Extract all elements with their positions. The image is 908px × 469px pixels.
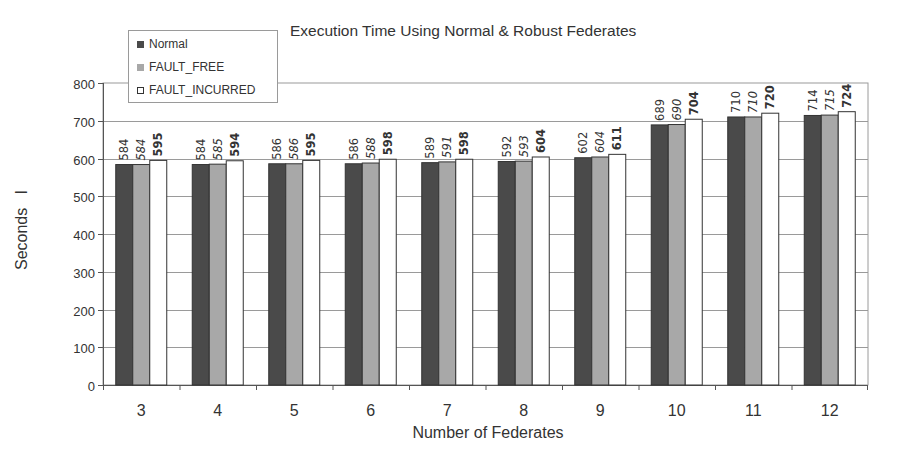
data-label: 604 [593,131,607,153]
y-tick-label: 600 [73,153,95,168]
y-axis-label: Seconds I [13,190,31,270]
bar-fault-free [439,162,456,385]
data-label: 584 [194,139,208,161]
data-label: 584 [134,139,148,161]
data-label: 595 [304,132,318,156]
y-tick-label: 0 [88,379,95,394]
data-label: 604 [534,129,548,153]
data-label: 724 [840,84,854,108]
x-tick-label: 6 [366,402,375,419]
bar-fault-incurred [838,112,855,385]
bar-normal [345,164,362,385]
bar-normal [728,117,745,385]
bar-fault-incurred [226,161,243,385]
x-tick-label: 12 [821,402,839,419]
legend-item-fault-incurred: FAULT_INCURRED [137,83,255,97]
bar-fault-free [286,164,303,385]
data-label: 602 [576,132,590,154]
data-label: 611 [610,126,624,150]
bar-fault-free [821,115,838,385]
y-tick-label: 800 [73,77,95,92]
legend: Normal FAULT_FREE FAULT_INCURRED [128,30,278,103]
legend-item-normal: Normal [137,37,188,51]
bar-fault-free [209,164,226,385]
data-label: 598 [381,131,395,155]
data-label: 689 [653,99,667,121]
y-tick-label: 100 [73,341,95,356]
data-label: 586 [347,138,361,160]
legend-label: Normal [149,37,188,51]
x-tick-label: 11 [745,402,762,419]
bar-fault-incurred [456,159,473,385]
y-tick-label: 300 [73,266,95,281]
legend-swatch-fault-incurred-icon [137,87,144,94]
bar-fault-free [668,125,685,385]
bar-normal [192,165,209,385]
bar-normal [498,162,515,385]
x-tick-label: 10 [668,402,686,419]
x-tick-label: 3 [137,402,146,419]
legend-swatch-normal-icon [137,41,144,48]
bar-fault-free [745,117,762,385]
data-label: 704 [687,91,701,115]
bar-normal [422,163,439,385]
bar-normal [269,164,286,385]
data-label: 589 [423,137,437,159]
data-label: 588 [364,137,378,159]
y-tick-label: 700 [73,115,95,130]
legend-item-fault-free: FAULT_FREE [137,60,224,74]
data-label: 710 [729,91,743,113]
data-label: 710 [746,91,760,113]
bar-fault-free [592,157,609,385]
x-axis-label: Number of Federates [412,424,563,442]
y-tick-label: 400 [73,228,95,243]
y-tick-label: 200 [73,304,95,319]
bar-fault-incurred [609,154,626,385]
legend-label: FAULT_FREE [149,60,224,74]
data-label: 585 [211,138,225,160]
bar-fault-incurred [379,159,396,385]
bar-fault-incurred [303,160,320,385]
data-label: 586 [287,138,301,160]
bar-fault-free [133,165,150,385]
legend-swatch-fault-free-icon [137,64,144,71]
bar-fault-incurred [685,119,702,385]
data-label: 592 [500,136,514,158]
bar-normal [804,115,821,385]
bar-fault-incurred [150,160,167,385]
bar-normal [651,125,668,385]
data-label: 584 [117,139,131,161]
x-tick-label: 5 [290,402,299,419]
data-label: 594 [228,133,242,157]
bar-normal [116,165,133,385]
x-tick-label: 7 [443,402,452,419]
data-label: 714 [806,90,820,112]
data-label: 690 [670,99,684,121]
chart-container: 0100200300400500600700800584584595358458… [0,0,908,469]
bar-normal [575,158,592,385]
x-tick-label: 9 [596,402,605,419]
data-label: 586 [270,138,284,160]
bar-fault-incurred [532,157,549,385]
y-tick-label: 500 [73,190,95,205]
data-label: 591 [440,136,454,158]
data-label: 593 [517,135,531,157]
bar-fault-free [362,163,379,385]
data-label: 715 [823,89,837,111]
data-label: 720 [763,85,777,109]
chart-title: Execution Time Using Normal & Robust Fed… [290,22,636,40]
bar-fault-free [515,161,532,385]
data-label: 598 [457,131,471,155]
data-label: 595 [151,132,165,156]
x-tick-label: 8 [519,402,528,419]
bar-fault-incurred [762,113,779,385]
legend-label: FAULT_INCURRED [149,83,255,97]
x-tick-label: 4 [213,402,222,419]
